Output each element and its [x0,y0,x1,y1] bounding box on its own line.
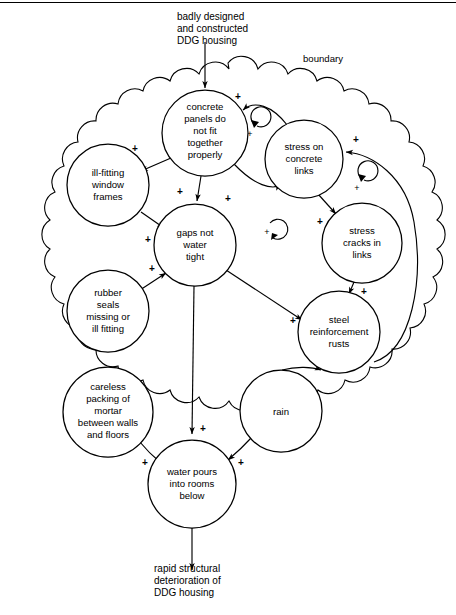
node-seals-line-2: missing or [86,311,131,322]
node-panels-line-2: not fit [193,125,217,136]
node-seals-line-3: ill fitting [92,323,124,334]
title-top-line-1: and constructed [177,23,248,34]
node-stress-line-0: stress on [285,141,324,152]
node-water-line-2: below [179,490,204,501]
sign-cracks-to-steel: + [361,286,367,297]
causal-loop-diagram: + + + + + + + + + + + + + + + + [0,0,456,615]
sign-seals-to-gaps: + [149,263,155,274]
title-bottom: rapid structural deterioration of DDG ho… [154,563,221,598]
node-stress-line-2: links [294,165,313,176]
node-water-line-1: into rooms [170,478,215,489]
sign-panels-to-gaps: + [177,186,183,197]
node-gaps-line-2: tight [186,251,204,262]
loop-sign-2: + [354,183,359,193]
title-top-line-2: DDG housing [177,35,237,46]
sign-mortar-to-water: + [142,457,148,468]
sign-steel-to-stress: + [353,134,359,145]
node-steel-line-2: rusts [329,338,350,349]
node-mortar-line-3: between walls [78,417,138,428]
node-stress-line-1: concrete [286,153,323,164]
title-bottom-line-2: DDG housing [154,587,214,598]
loop-sign-3: + [264,227,269,237]
node-water-line-0: water pours [166,466,217,477]
diagram-canvas: + + + + + + + + + + + + + + + + [0,0,456,615]
node-stress[interactable]: stress on concrete links [265,120,343,198]
node-windows-line-1: window [91,179,124,190]
node-cracks-line-0: stress [349,225,375,236]
node-mortar-line-1: packing of [86,393,130,404]
node-rain-line-0: rain [273,406,289,417]
node-panels-line-1: panels do [184,113,226,124]
sign-panels-to-stress: + [225,193,231,204]
node-panels[interactable]: concrete panels do not fit together prop… [162,90,248,176]
sign-stress-to-panels: + [235,91,241,102]
node-seals-line-1: seals [97,299,120,310]
boundary-label: boundary [303,53,343,64]
sign-gaps-to-water: + [200,423,206,434]
node-cracks-line-1: cracks in [343,237,381,248]
title-top: badly designed and constructed DDG housi… [177,11,248,46]
node-panels-line-3: together [187,137,223,148]
node-rain[interactable]: rain [240,370,322,452]
node-panels-line-0: concrete [187,101,224,112]
node-steel-line-0: steel [329,314,349,325]
node-mortar-line-0: careless [90,381,126,392]
node-mortar-line-2: mortar [94,405,123,416]
node-gaps-line-1: water [182,239,207,250]
node-windows[interactable]: ill-fitting window frames [67,144,149,226]
node-cracks-line-2: links [352,249,371,260]
node-mortar[interactable]: careless packing of mortar between walls… [63,367,153,457]
title-bottom-line-1: deterioration of [154,575,221,586]
node-steel-line-1: reinforcement [310,326,369,337]
sign-gaps-to-steel: + [290,315,296,326]
node-panels-line-4: properly [188,149,223,160]
node-cracks[interactable]: stress cracks in links [322,203,402,283]
title-top-line-0: badly designed [177,11,244,22]
node-windows-line-2: frames [93,191,123,202]
node-water[interactable]: water pours into rooms below [148,440,236,528]
node-steel[interactable]: steel reinforcement rusts [298,291,380,373]
sign-stress-to-cracks: + [317,216,323,227]
node-gaps[interactable]: gaps not water tight [154,204,236,286]
node-windows-line-0: ill-fitting [92,167,125,178]
node-seals-line-0: rubber [94,287,123,298]
title-bottom-line-0: rapid structural [154,563,220,574]
node-gaps-line-0: gaps not [177,227,214,238]
node-seals[interactable]: rubber seals missing or ill fitting [67,270,149,352]
node-mortar-line-4: and floors [87,429,129,440]
sign-rain-to-water: + [238,457,244,468]
sign-windows-to-gaps: + [145,234,151,245]
